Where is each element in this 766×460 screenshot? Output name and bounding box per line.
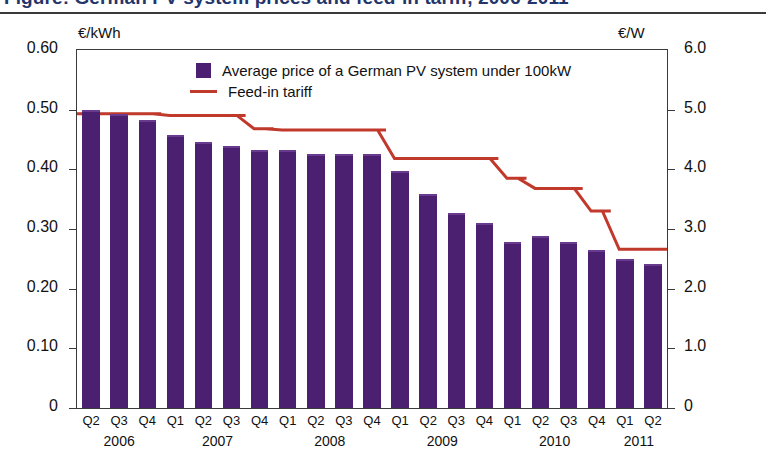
- bar-cap: [223, 146, 240, 148]
- left-axis-unit: €/kWh: [78, 24, 121, 41]
- legend-item-pv-price: Average price of a German PV system unde…: [196, 60, 571, 81]
- bar-q3-2007: [223, 146, 240, 408]
- bar-q2-2010: [532, 236, 549, 408]
- x-axis-year-label: 2009: [412, 433, 472, 449]
- y-axis-right-tick-label: 4.0: [684, 158, 744, 176]
- bar-cap: [363, 154, 380, 156]
- bar-q2-2009: [419, 194, 436, 408]
- bar-q4-2010: [588, 250, 605, 408]
- legend-label-feed-in-tariff: Feed-in tariff: [228, 83, 312, 100]
- bar-cap: [476, 223, 493, 225]
- bar-cap: [448, 213, 465, 215]
- axis-tick-mark: [668, 229, 675, 230]
- bar-cap: [82, 110, 99, 112]
- bar-cap: [307, 154, 324, 156]
- chart-page: Figure: German PV system prices and feed…: [0, 0, 766, 460]
- bar-cap: [110, 114, 127, 116]
- bar-cap: [279, 150, 296, 152]
- axis-tick-mark: [69, 229, 76, 230]
- bar-cap: [532, 236, 549, 238]
- bar-cap: [560, 242, 577, 244]
- y-axis-left-tick-label: 0.20: [0, 278, 58, 296]
- x-axis-quarter-label: Q2: [635, 413, 671, 428]
- y-axis-left-tick-label: 0.30: [0, 218, 58, 236]
- x-axis-year-label: 2010: [525, 433, 585, 449]
- bar-cap: [195, 142, 212, 144]
- y-axis-right-tick-label: 0: [684, 397, 744, 415]
- y-axis-right-tick-label: 1.0: [684, 337, 744, 355]
- y-axis-left-tick-label: 0.60: [0, 39, 58, 57]
- bar-q3-2006: [110, 114, 127, 408]
- bar-cap: [167, 135, 184, 137]
- bar-q1-2007: [167, 135, 184, 408]
- page-title: Figure: German PV system prices and feed…: [4, 0, 569, 9]
- chart-legend: Average price of a German PV system unde…: [196, 60, 571, 102]
- y-axis-left-tick-label: 0: [0, 397, 58, 415]
- axis-tick-mark: [668, 348, 675, 349]
- axis-tick-mark: [668, 110, 675, 111]
- bar-cap: [419, 194, 436, 196]
- plot-area: [76, 49, 668, 409]
- y-axis-left-tick-label: 0.10: [0, 337, 58, 355]
- title-divider: [0, 12, 766, 14]
- bar-q4-2006: [139, 120, 156, 408]
- bar-q3-2010: [560, 242, 577, 408]
- y-axis-right-tick-label: 3.0: [684, 218, 744, 236]
- plot-inner: [77, 50, 667, 408]
- bar-cap: [588, 250, 605, 252]
- y-axis-right-tick-label: 6.0: [684, 39, 744, 57]
- bar-q1-2011: [616, 259, 633, 408]
- axis-tick-mark: [69, 169, 76, 170]
- bar-cap: [335, 154, 352, 156]
- bar-q2-2011: [644, 264, 661, 408]
- bar-cap: [139, 120, 156, 122]
- legend-swatch-line-icon: [190, 90, 217, 93]
- axis-tick-mark: [69, 408, 76, 409]
- bar-cap: [644, 264, 661, 266]
- bar-q3-2009: [448, 213, 465, 408]
- y-axis-right-tick-label: 5.0: [684, 99, 744, 117]
- bar-cap: [616, 259, 633, 261]
- bar-cap: [504, 242, 521, 244]
- axis-tick-mark: [668, 289, 675, 290]
- x-axis-year-label: 2006: [89, 433, 149, 449]
- legend-label-pv-price: Average price of a German PV system unde…: [222, 62, 571, 79]
- bar-q1-2008: [279, 150, 296, 408]
- bar-cap: [391, 171, 408, 173]
- bar-q3-2008: [335, 154, 352, 408]
- x-axis-year-label: 2008: [300, 433, 360, 449]
- bar-q2-2008: [307, 154, 324, 408]
- x-axis-year-label: 2007: [187, 433, 247, 449]
- bar-cap: [251, 150, 268, 152]
- bar-q4-2007: [251, 150, 268, 408]
- axis-tick-mark: [668, 408, 675, 409]
- bar-q4-2008: [363, 154, 380, 408]
- bar-q1-2010: [504, 242, 521, 408]
- bar-q2-2006: [82, 110, 99, 408]
- y-axis-right-tick-label: 2.0: [684, 278, 744, 296]
- legend-item-feed-in-tariff: Feed-in tariff: [196, 81, 571, 102]
- axis-tick-mark: [668, 169, 675, 170]
- axis-tick-mark: [69, 110, 76, 111]
- right-axis-unit: €/W: [618, 24, 645, 41]
- x-axis-year-label: 2011: [609, 433, 669, 449]
- y-axis-left-tick-label: 0.50: [0, 99, 58, 117]
- y-axis-left-tick-label: 0.40: [0, 158, 58, 176]
- axis-tick-mark: [69, 348, 76, 349]
- bar-q4-2009: [476, 223, 493, 408]
- bar-q2-2007: [195, 142, 212, 408]
- figure-title-strip: Figure: German PV system prices and feed…: [0, 0, 766, 12]
- axis-tick-mark: [69, 289, 76, 290]
- legend-swatch-square-icon: [196, 63, 211, 78]
- bar-q1-2009: [391, 171, 408, 408]
